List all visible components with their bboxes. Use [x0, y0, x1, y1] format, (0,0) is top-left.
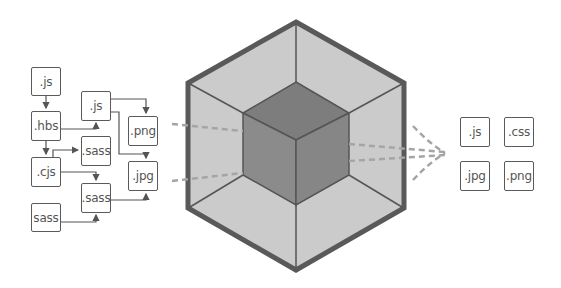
input-module-box: .cjs	[31, 157, 61, 187]
input-module-box: .png	[128, 116, 158, 146]
output-asset-box: .css	[504, 117, 534, 147]
input-module-box: .js	[31, 67, 61, 96]
output-asset-box: .png	[504, 161, 534, 191]
input-module-box: .js	[81, 91, 111, 121]
input-module-box: .sass	[81, 183, 111, 213]
input-module-box: .jpg	[128, 161, 158, 191]
output-asset-box: .js	[460, 117, 490, 147]
input-module-box: .sass	[81, 136, 111, 166]
input-module-box: sass	[31, 203, 61, 232]
input-module-box: .hbs	[31, 111, 61, 141]
output-asset-box: .jpg	[460, 161, 490, 191]
